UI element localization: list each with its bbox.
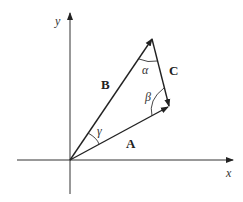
vector-a-label: A — [126, 136, 136, 151]
y-axis-label: y — [54, 14, 61, 28]
vector-c-label: C — [169, 63, 178, 78]
vector-diagram: x y B A C α β γ — [0, 0, 243, 202]
angle-beta-label: β — [144, 90, 151, 104]
angle-alpha-label: α — [142, 63, 149, 77]
angle-beta-arc — [151, 88, 164, 116]
angle-gamma-label: γ — [97, 124, 102, 138]
vector-b — [70, 39, 152, 160]
vector-c — [152, 39, 169, 106]
angle-alpha-arc — [139, 59, 157, 62]
x-axis-label: x — [225, 166, 232, 180]
vector-a — [70, 107, 168, 160]
vector-b-label: B — [101, 77, 110, 92]
